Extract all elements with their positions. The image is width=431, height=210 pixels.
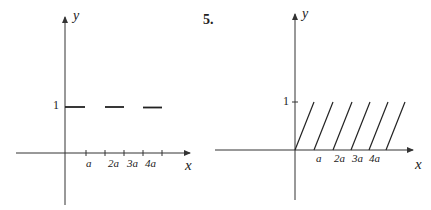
left-tick-2a: 2a: [108, 157, 119, 169]
right-y-label: y: [302, 6, 308, 22]
right-tick-4a: 4a: [369, 152, 380, 164]
square-wave-graph: [16, 17, 190, 205]
right-tick-3a: 3a: [352, 152, 363, 164]
square-wave-segments: [65, 107, 162, 108]
left-one-label: 1: [53, 98, 59, 113]
left-tick-4a: 4a: [145, 157, 156, 169]
left-y-label: y: [73, 8, 79, 24]
sawtooth-wave-graph: [215, 14, 413, 200]
right-one-label: 1: [283, 94, 289, 109]
figure-canvas: [0, 0, 431, 210]
right-tick-2a: 2a: [334, 152, 345, 164]
sawtooth-segments: [295, 102, 405, 150]
right-tick-a: a: [316, 152, 322, 164]
problem-number: 5.: [203, 12, 214, 28]
left-tick-a: a: [86, 157, 92, 169]
right-x-label: x: [415, 156, 422, 173]
left-tick-3a: 3a: [127, 157, 138, 169]
left-x-label: x: [185, 157, 192, 174]
